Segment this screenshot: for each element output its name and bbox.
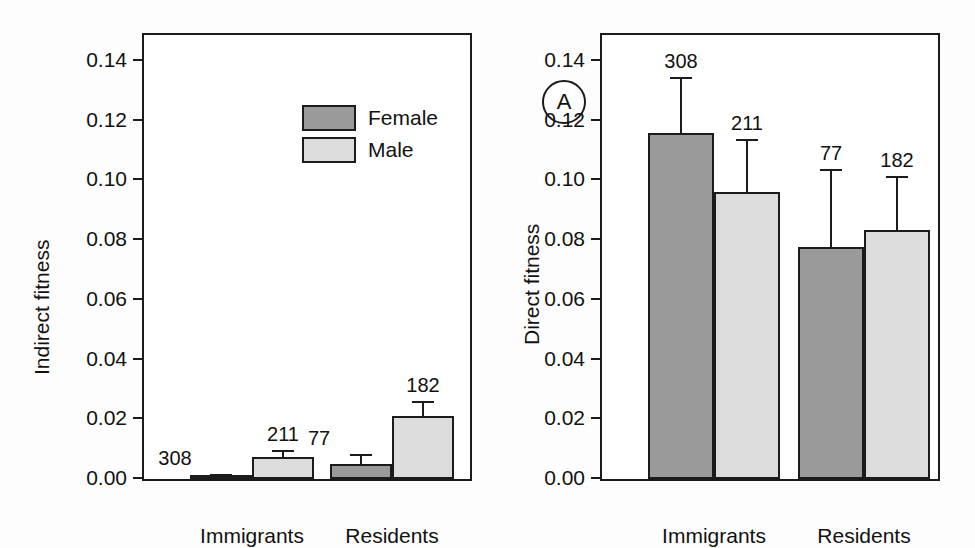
figure-root: Indirect fitness 30821177182 A Female Ma… [0,0,975,548]
bar-value-label: 211 [267,423,299,446]
panel-a-bars: 30821177182 [144,35,470,479]
y-axis-tick: 0.06 [133,298,144,300]
bar-male-residents [392,416,454,479]
bar-female-immigrants [648,133,714,479]
y-axis-tick: 0.00 [133,477,144,479]
bar-female-residents [798,247,864,479]
y-axis-tick: 0.06 [591,298,602,300]
y-axis-tick-label: 0.04 [86,347,127,371]
bar-male-residents [864,230,930,479]
y-axis-tick: 0.04 [591,358,602,360]
y-axis-tick-label: 0.06 [544,287,585,311]
y-axis-tick: 0.14 [591,59,602,61]
x-axis-category-label: Immigrants [662,524,766,548]
panel-b-y-axis-title: Direct fitness [520,224,544,345]
y-axis-tick-label: 0.14 [544,48,585,72]
y-axis-tick-label: 0.10 [86,167,127,191]
bar-value-label: 182 [406,374,439,397]
error-bar [746,141,748,192]
bar-value-label: 77 [820,142,842,165]
panel-b-plot-area: 30821177182 B 0.000.020.040.060.080.100.… [600,33,940,481]
bar-value-label: 182 [880,149,913,172]
error-bar [422,403,424,415]
bar-female-residents [330,464,392,479]
y-axis-tick: 0.00 [591,477,602,479]
panel-a-plot-area: 30821177182 A Female Male 0.000.020.040.… [142,33,472,481]
error-bar-cap [350,454,372,456]
y-axis-tick: 0.12 [133,119,144,121]
y-axis-tick-label: 0.06 [86,287,127,311]
y-axis-tick: 0.08 [133,238,144,240]
error-bar [680,79,682,132]
x-axis-category-label: Immigrants [200,524,304,548]
y-axis-tick-label: 0.02 [544,406,585,430]
x-axis-category-label: Residents [817,524,910,548]
y-axis-tick-label: 0.14 [86,48,127,72]
y-axis-tick-label: 0.08 [544,227,585,251]
bar-value-label: 308 [158,447,191,470]
error-bar-cap [886,176,908,178]
error-bar [896,178,898,230]
legend: Female Male [302,103,438,167]
error-bar-cap [272,450,294,452]
legend-swatch-female-icon [302,105,356,131]
panel-a-y-axis-title: Indirect fitness [30,240,54,375]
legend-item-male: Male [302,135,438,165]
bar-value-label: 211 [731,112,763,135]
y-axis-tick-label: 0.00 [544,466,585,490]
y-axis-tick: 0.04 [133,358,144,360]
legend-swatch-male-icon [302,137,356,163]
panel-a: Indirect fitness 30821177182 A Female Ma… [0,0,490,548]
legend-label-male: Male [368,138,414,162]
legend-item-female: Female [302,103,438,133]
error-bar-cap [670,77,692,79]
y-axis-tick-label: 0.00 [86,466,127,490]
y-axis-tick-label: 0.08 [86,227,127,251]
y-axis-tick-label: 0.10 [544,167,585,191]
y-axis-tick-label: 0.12 [86,108,127,132]
y-axis-tick-label: 0.04 [544,347,585,371]
bar-male-immigrants [714,192,780,479]
error-bar [360,456,362,463]
y-axis-tick: 0.10 [133,178,144,180]
error-bar-cap [820,169,842,171]
x-axis-category-label: Residents [345,524,438,548]
panel-b: Direct fitness 30821177182 B 0.000.020.0… [490,0,975,548]
y-axis-tick: 0.10 [591,178,602,180]
error-bar-cap [210,474,232,476]
y-axis-tick: 0.12 [591,119,602,121]
bar-male-immigrants [252,457,314,479]
bar-value-label: 308 [664,50,697,73]
bar-value-label: 77 [308,427,330,450]
y-axis-tick: 0.14 [133,59,144,61]
y-axis-tick: 0.02 [133,417,144,419]
y-axis-tick-label: 0.12 [544,108,585,132]
error-bar-cap [736,139,758,141]
error-bar [282,452,284,456]
y-axis-tick-label: 0.02 [86,406,127,430]
error-bar-cap [412,401,434,403]
y-axis-tick: 0.02 [591,417,602,419]
panel-b-bars: 30821177182 [602,35,938,479]
legend-label-female: Female [368,106,438,130]
error-bar [830,171,832,247]
y-axis-tick: 0.08 [591,238,602,240]
